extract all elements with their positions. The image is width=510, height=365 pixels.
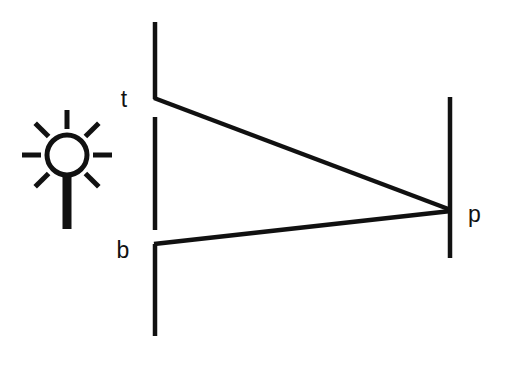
- ray-t-to-p: [154, 98, 451, 210]
- ray-b-to-p: [154, 211, 451, 244]
- diagram-canvas: t b p: [0, 0, 510, 365]
- light-ray-ne-icon: [85, 123, 98, 136]
- light-ray-nw-icon: [35, 123, 48, 136]
- ray-diagram-figure: t b p: [0, 0, 510, 365]
- label-p: p: [468, 201, 481, 227]
- light-source-icon: [22, 110, 112, 229]
- label-b: b: [117, 237, 130, 263]
- light-rays-group: [154, 98, 451, 244]
- light-source-bulb-icon: [47, 135, 87, 175]
- label-t: t: [121, 86, 128, 112]
- light-ray-se-icon: [85, 173, 98, 186]
- light-ray-sw-icon: [35, 173, 48, 186]
